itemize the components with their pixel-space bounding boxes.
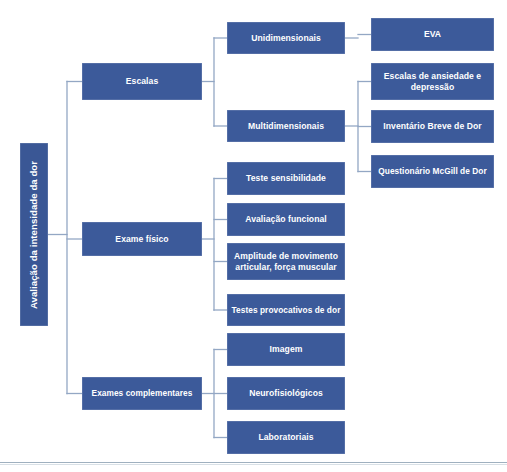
node-exames-complementares-label: Exames complementares (92, 388, 193, 398)
node-root-label: Avaliação da intensidade da dor (28, 160, 40, 308)
node-escalas-ansiedade-depressao-label: Escalas de ansiedade e depressão (373, 71, 492, 92)
node-exames-complementares[interactable]: Exames complementares (82, 377, 202, 410)
node-exame-fisico-label: Exame físico (115, 234, 168, 244)
node-laboratoriais[interactable]: Laboratoriais (227, 421, 345, 454)
node-escalas-label: Escalas (126, 76, 158, 86)
node-laboratoriais-label: Laboratoriais (258, 432, 313, 442)
node-eva-label: EVA (424, 29, 441, 39)
page-footer-rule (0, 462, 507, 463)
diagram-canvas: Avaliação da intensidade da dor Escalas … (0, 0, 507, 472)
node-imagem[interactable]: Imagem (227, 333, 345, 366)
page-footer-rule-secondary (0, 464, 507, 465)
node-inventario-breve-dor-label: Inventário Breve de Dor (383, 121, 481, 131)
node-escalas-ansiedade-depressao[interactable]: Escalas de ansiedade e depressão (371, 63, 494, 100)
node-avaliacao-funcional-label: Avaliação funcional (245, 214, 327, 224)
node-neurofisiologicos[interactable]: Neurofisiológicos (227, 377, 345, 410)
node-testes-provocativos-dor-label: Testes provocativos de dor (232, 305, 341, 315)
node-neurofisiologicos-label: Neurofisiológicos (249, 388, 323, 398)
node-imagem-label: Imagem (270, 344, 303, 354)
node-avaliacao-funcional[interactable]: Avaliação funcional (227, 203, 345, 236)
node-eva[interactable]: EVA (371, 18, 494, 51)
node-multidimensionais[interactable]: Multidimensionais (227, 110, 345, 142)
node-escalas[interactable]: Escalas (82, 63, 202, 100)
node-multidimensionais-label: Multidimensionais (248, 121, 324, 131)
node-exame-fisico[interactable]: Exame físico (82, 222, 202, 256)
node-root[interactable]: Avaliação da intensidade da dor (20, 143, 48, 326)
node-inventario-breve-dor[interactable]: Inventário Breve de Dor (371, 110, 494, 143)
node-questionario-mcgill-dor-label: Questionário McGill de Dor (378, 166, 487, 176)
node-amplitude-movimento[interactable]: Amplitude de movimento articular, força … (227, 243, 345, 280)
node-testes-provocativos-dor[interactable]: Testes provocativos de dor (227, 294, 345, 326)
node-unidimensionais-label: Unidimensionais (251, 33, 321, 43)
node-unidimensionais[interactable]: Unidimensionais (227, 22, 345, 54)
node-questionario-mcgill-dor[interactable]: Questionário McGill de Dor (371, 155, 494, 188)
node-amplitude-movimento-label: Amplitude de movimento articular, força … (229, 251, 343, 272)
node-teste-sensibilidade[interactable]: Teste sensibilidade (227, 162, 345, 195)
node-teste-sensibilidade-label: Teste sensibilidade (246, 173, 326, 183)
